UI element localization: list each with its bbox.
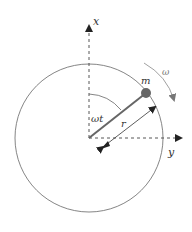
angle-label: ωt xyxy=(91,113,104,124)
omega-label: ω xyxy=(162,67,170,77)
radius-dimension-arrow xyxy=(103,107,155,147)
radius-label: r xyxy=(121,118,127,129)
x-axis-label: x xyxy=(93,15,100,28)
mass xyxy=(141,88,151,98)
y-axis-label: y xyxy=(167,146,175,159)
angle-arc xyxy=(89,94,121,110)
rotating-mass-diagram: x y m ω ωt r xyxy=(0,0,192,232)
mass-label: m xyxy=(141,75,150,86)
